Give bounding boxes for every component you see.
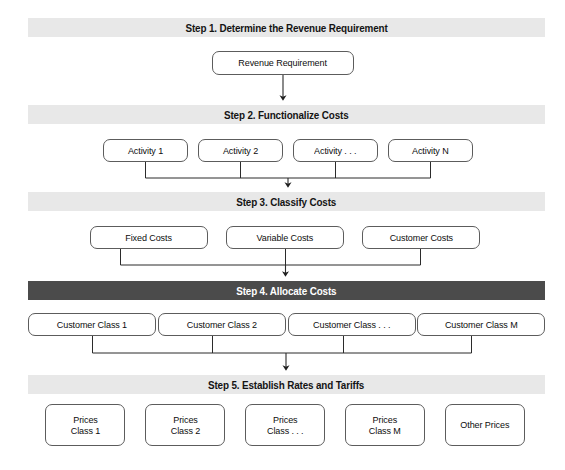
step-1-banner-label: Step 1. Determine the Revenue Requiremen… — [185, 22, 387, 34]
connector-step3-to-step4 — [121, 249, 421, 274]
node-prices-class-m[interactable]: Prices Class M — [345, 404, 425, 446]
node-other-prices[interactable]: Other Prices — [445, 404, 525, 446]
node-customer-costs-label: Customer Costs — [389, 232, 452, 244]
node-customer-class-m[interactable]: Customer Class M — [417, 313, 545, 336]
node-activity-n-label: Activity N — [412, 145, 449, 157]
node-fixed-costs-label: Fixed Costs — [126, 232, 173, 244]
node-activity-ellipsis[interactable]: Activity . . . — [293, 139, 378, 162]
node-customer-class-ellipsis[interactable]: Customer Class . . . — [288, 313, 416, 336]
node-activity-2[interactable]: Activity 2 — [198, 139, 283, 162]
connector-step2-to-step3 — [146, 162, 431, 185]
node-prices-class-m-label: Prices Class M — [369, 414, 401, 437]
node-prices-class-2-label: Prices Class 2 — [170, 414, 199, 437]
node-customer-class-2[interactable]: Customer Class 2 — [158, 313, 286, 336]
step-3-banner-label: Step 3. Classify Costs — [236, 196, 336, 208]
node-variable-costs[interactable]: Variable Costs — [226, 226, 344, 249]
node-customer-class-ellipsis-label: Customer Class . . . — [313, 319, 390, 331]
node-activity-n[interactable]: Activity N — [388, 139, 473, 162]
node-activity-ellipsis-label: Activity . . . — [314, 145, 356, 157]
step-5-banner-label: Step 5. Establish Rates and Tariffs — [208, 379, 364, 391]
connector-step4-to-step5 — [93, 336, 472, 368]
node-other-prices-label: Other Prices — [460, 419, 509, 431]
node-activity-1-label: Activity 1 — [128, 145, 163, 157]
node-activity-1[interactable]: Activity 1 — [103, 139, 188, 162]
node-prices-class-ellipsis[interactable]: Prices Class . . . — [245, 404, 325, 446]
step-4-banner-label: Step 4. Allocate Costs — [236, 285, 336, 297]
node-customer-class-1-label: Customer Class 1 — [57, 319, 127, 331]
node-customer-class-2-label: Customer Class 2 — [187, 319, 257, 331]
step-5-banner: Step 5. Establish Rates and Tariffs — [28, 375, 545, 394]
node-prices-class-2[interactable]: Prices Class 2 — [145, 404, 225, 446]
node-customer-costs[interactable]: Customer Costs — [362, 226, 480, 249]
step-3-banner: Step 3. Classify Costs — [28, 192, 545, 211]
node-variable-costs-label: Variable Costs — [257, 232, 314, 244]
node-prices-class-1-label: Prices Class 1 — [70, 414, 99, 437]
node-prices-class-1[interactable]: Prices Class 1 — [45, 404, 125, 446]
step-2-banner-label: Step 2. Functionalize Costs — [224, 109, 349, 121]
node-fixed-costs[interactable]: Fixed Costs — [90, 226, 208, 249]
flowchart-diagram: Step 1. Determine the Revenue Requiremen… — [0, 0, 565, 470]
node-customer-class-m-label: Customer Class M — [445, 319, 518, 331]
step-1-banner: Step 1. Determine the Revenue Requiremen… — [28, 18, 545, 37]
node-activity-2-label: Activity 2 — [223, 145, 258, 157]
node-revenue-requirement[interactable]: Revenue Requirement — [212, 51, 354, 75]
node-revenue-requirement-label: Revenue Requirement — [239, 57, 327, 69]
node-customer-class-1[interactable]: Customer Class 1 — [28, 313, 156, 336]
step-4-banner: Step 4. Allocate Costs — [28, 281, 545, 300]
step-2-banner: Step 2. Functionalize Costs — [28, 105, 545, 124]
node-prices-class-ellipsis-label: Prices Class . . . — [267, 414, 304, 437]
